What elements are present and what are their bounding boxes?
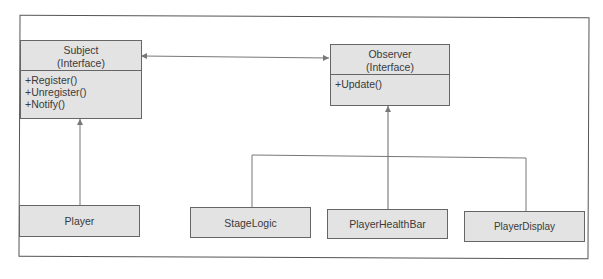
subject-name: Subject [21, 44, 141, 57]
subject-operations: +Register() +Unregister() +Notify() [21, 71, 141, 110]
player-class: Player [19, 205, 140, 237]
operation-update: +Update() [335, 78, 449, 90]
implementers-bus-line [252, 155, 526, 211]
player-name: Player [65, 215, 95, 227]
stagelogic-name: StageLogic [224, 217, 277, 229]
association-line [142, 56, 329, 58]
observer-class: Observer (Interface) +Update() [330, 44, 450, 106]
subject-header: Subject (Interface) [21, 41, 141, 71]
stagelogic-class: StageLogic [190, 207, 311, 238]
playerdisplay-name: PlayerDisplay [494, 221, 555, 232]
observer-name: Observer [331, 48, 449, 61]
operation-register: +Register() [25, 74, 141, 86]
observer-stereotype: (Interface) [331, 61, 449, 74]
observer-header: Observer (Interface) [331, 45, 449, 75]
operation-notify: +Notify() [25, 98, 141, 110]
subject-class: Subject (Interface) +Register() +Unregis… [20, 40, 142, 119]
observer-operations: +Update() [331, 75, 449, 90]
operation-unregister: +Unregister() [25, 86, 141, 98]
playerhealthbar-class: PlayerHealthBar [327, 209, 448, 239]
subject-stereotype: (Interface) [21, 57, 141, 70]
playerdisplay-class: PlayerDisplay [464, 211, 585, 242]
playerhealthbar-name: PlayerHealthBar [349, 218, 425, 230]
